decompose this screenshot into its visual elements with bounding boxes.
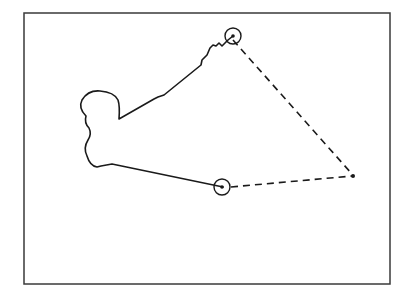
start-marker xyxy=(214,179,230,195)
dashed-line-lower xyxy=(231,176,352,187)
start-dot-icon xyxy=(220,185,224,189)
end-dot-icon xyxy=(231,34,235,38)
dashed-line-upper xyxy=(233,40,352,174)
diagram-canvas xyxy=(0,0,409,291)
convergence-point-icon xyxy=(351,174,355,178)
trajectory-path xyxy=(81,36,233,187)
end-marker xyxy=(225,28,241,44)
